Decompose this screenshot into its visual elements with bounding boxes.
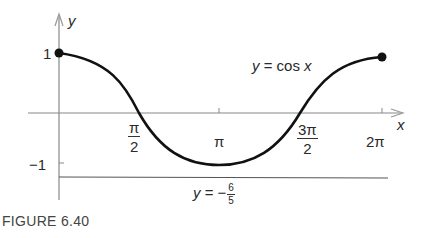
curve-label-eq: = cos bbox=[260, 57, 305, 74]
y-tick-neg-one: −1 bbox=[29, 156, 46, 173]
bound-label-den: 5 bbox=[228, 195, 234, 206]
y-axis-label: y bbox=[68, 12, 76, 29]
x-tick-three-half-pi-num: 3π bbox=[297, 122, 318, 139]
bound-label-num: 6 bbox=[227, 183, 235, 195]
curve-label: y = cos x bbox=[252, 57, 312, 74]
x-axis-label: x bbox=[397, 116, 405, 133]
bound-label-lhs: y bbox=[193, 184, 201, 201]
curve-label-lhs: y bbox=[252, 57, 260, 74]
y-tick-one: 1 bbox=[43, 45, 51, 62]
x-tick-half-pi-num: π bbox=[128, 120, 140, 137]
bound-label: y = −65 bbox=[193, 183, 235, 206]
bound-label-eq: = − bbox=[201, 184, 227, 201]
curve-label-var: x bbox=[304, 57, 312, 74]
x-tick-pi: π bbox=[214, 133, 224, 150]
endpoint-end bbox=[378, 53, 387, 62]
endpoint-start bbox=[55, 49, 64, 58]
x-tick-half-pi: π 2 bbox=[128, 120, 140, 154]
x-tick-three-half-pi-den: 2 bbox=[303, 139, 311, 156]
bound-line bbox=[59, 177, 388, 178]
x-tick-half-pi-den: 2 bbox=[130, 137, 138, 154]
x-tick-two-pi: 2π bbox=[366, 133, 385, 150]
figure-caption: FIGURE 6.40 bbox=[2, 213, 89, 229]
x-tick-three-half-pi: 3π 2 bbox=[297, 122, 318, 156]
bound-label-fraction: 65 bbox=[227, 183, 235, 206]
